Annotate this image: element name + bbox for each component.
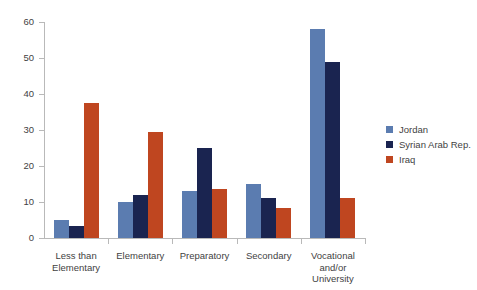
y-axis-tick-label-text: 50	[0, 53, 34, 63]
x-axis-line	[44, 238, 366, 239]
y-axis-tick-label-text: 30	[0, 125, 34, 135]
bar	[69, 226, 84, 238]
x-axis-category-label-line: Elementary	[44, 262, 108, 274]
bar	[261, 198, 276, 238]
bar	[54, 220, 69, 238]
bar	[133, 195, 148, 238]
y-axis-tick-label: 40	[0, 89, 34, 99]
legend-swatch-icon	[386, 126, 393, 133]
chart-legend: JordanSyrian Arab Rep.Iraq	[386, 122, 471, 167]
y-axis-tick-label-text: 40	[0, 89, 34, 99]
x-axis-category-label: Secondary	[237, 250, 301, 262]
y-axis-tick-label: 50	[0, 53, 34, 63]
legend-item-label: Jordan	[399, 125, 428, 135]
bar-chart: 0102030405060 Less thanElementaryElement…	[0, 0, 477, 290]
bar	[276, 208, 291, 238]
y-axis-tick-label-text: 20	[0, 161, 34, 171]
x-axis-category-label-line: Secondary	[237, 250, 301, 262]
bar	[182, 191, 197, 238]
bar	[118, 202, 133, 238]
x-axis-category-label-line: Less than	[44, 250, 108, 262]
x-axis-category-label: Elementary	[108, 250, 172, 262]
x-axis-category-label-line: University	[301, 273, 365, 285]
x-axis-category-label-line: Preparatory	[172, 250, 236, 262]
bar	[212, 189, 227, 238]
y-axis-tick-label-text: 10	[0, 197, 34, 207]
x-axis-category-label-line: Elementary	[108, 250, 172, 262]
x-axis-category-label: Vocationaland/orUniversity	[301, 250, 365, 285]
y-axis-tick-label-text: 0	[0, 233, 34, 243]
y-axis-tick-label: 0	[0, 233, 34, 243]
x-axis-tick	[301, 239, 302, 244]
bar	[148, 132, 163, 238]
legend-item-label: Iraq	[399, 155, 415, 165]
x-axis-category-label-line: and/or	[301, 262, 365, 274]
legend-item: Jordan	[386, 122, 471, 137]
y-axis-tick-label-text: 60	[0, 17, 34, 27]
bar	[197, 148, 212, 238]
x-axis-tick	[365, 239, 366, 244]
legend-item-label: Syrian Arab Rep.	[399, 140, 471, 150]
y-axis-tick-label: 20	[0, 161, 34, 171]
legend-item: Iraq	[386, 152, 471, 167]
x-axis-category-label-line: Vocational	[301, 250, 365, 262]
plot-area	[44, 22, 365, 238]
legend-swatch-icon	[386, 156, 393, 163]
x-axis-category-label: Less thanElementary	[44, 250, 108, 273]
x-axis-tick	[108, 239, 109, 244]
bar	[246, 184, 261, 238]
bar	[325, 62, 340, 238]
y-axis-tick-label: 10	[0, 197, 34, 207]
y-axis-tick-label: 60	[0, 17, 34, 27]
legend-swatch-icon	[386, 141, 393, 148]
x-axis-category-label: Preparatory	[172, 250, 236, 262]
x-axis-tick	[172, 239, 173, 244]
bar	[340, 198, 355, 238]
x-axis-tick	[237, 239, 238, 244]
bar	[310, 29, 325, 238]
bar	[84, 103, 99, 238]
y-axis-tick	[39, 238, 44, 239]
y-axis-tick-label: 30	[0, 125, 34, 135]
legend-item: Syrian Arab Rep.	[386, 137, 471, 152]
